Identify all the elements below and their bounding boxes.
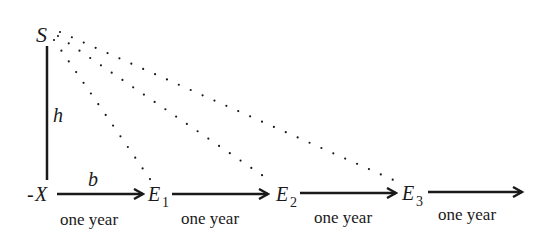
segment-label-4: one year	[438, 205, 496, 224]
position-sub-E1: 1	[162, 195, 169, 210]
dotted-line-S-E3	[60, 32, 398, 182]
position-label-E2: E	[275, 183, 288, 205]
observer-prefix-dash: -	[27, 183, 34, 205]
position-label-E1: E	[147, 183, 160, 205]
source-observer-diagram: S h - X b E 1 E 2 E 3 one year one year …	[0, 0, 555, 247]
position-sub-E3: 3	[416, 194, 423, 209]
segment-label-1: one year	[60, 210, 118, 229]
segment-label-2: one year	[181, 209, 239, 228]
position-label-E3: E	[401, 182, 414, 204]
baseline-label-b: b	[88, 168, 98, 190]
observer-label-X: X	[34, 183, 48, 205]
dotted-line-S-E1	[54, 40, 152, 182]
segment-label-3: one year	[314, 208, 372, 227]
source-label-S: S	[36, 22, 47, 47]
position-sub-E2: 2	[290, 195, 297, 210]
dotted-line-S-E2	[58, 36, 272, 182]
height-label-h: h	[53, 104, 63, 126]
